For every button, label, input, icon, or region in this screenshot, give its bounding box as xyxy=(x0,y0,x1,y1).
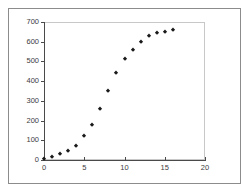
y-axis-line xyxy=(44,22,45,161)
chart-figure: 010020030040050060070005101520 xyxy=(0,0,251,193)
plot-panel xyxy=(44,22,205,160)
x-axis-line xyxy=(44,160,206,161)
